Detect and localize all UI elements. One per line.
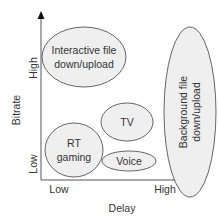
region-voice-label: Voice [116, 155, 142, 167]
region-rt-gaming-label-2: gaming [57, 151, 92, 163]
region-interactive-label-1: Interactive file [52, 44, 117, 56]
y-axis-low-label: Low [27, 154, 39, 174]
region-interactive-label-2: down/upload [54, 58, 114, 70]
x-axis-title: Delay [109, 202, 137, 214]
region-rt-gaming-label-1: RT [67, 137, 81, 149]
x-axis-high-label: High [154, 183, 176, 195]
qos-diagram: Interactive file down/upload TV RT gamin… [0, 0, 219, 223]
region-rt-gaming-ellipse [45, 123, 103, 177]
region-background-label-2: down/upload [190, 82, 202, 142]
y-axis-high-label: High [27, 57, 39, 79]
region-background-label-1: Background file [177, 76, 189, 149]
y-axis-title: Bitrate [10, 95, 22, 126]
y-axis-arrow-icon [38, 11, 45, 19]
x-axis-low-label: Low [49, 183, 69, 195]
region-tv-label: TV [120, 116, 133, 128]
region-interactive-ellipse [42, 27, 126, 87]
